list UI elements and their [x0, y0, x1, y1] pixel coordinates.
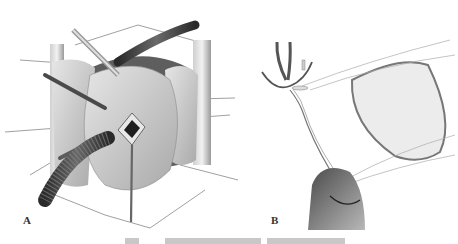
figure-caption-cropped: [125, 238, 345, 244]
panel-label-b: B: [271, 214, 278, 226]
panel-a-illustration: [0, 0, 240, 230]
panel-b-illustration: [250, 0, 458, 230]
panel-label-a: A: [23, 214, 31, 226]
medical-figure: A: [0, 0, 458, 244]
